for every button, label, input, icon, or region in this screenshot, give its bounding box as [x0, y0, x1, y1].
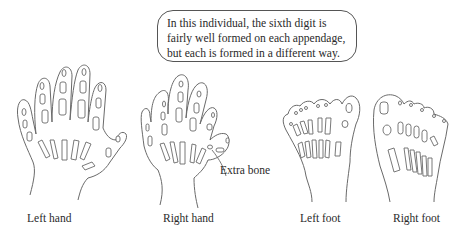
left-foot-drawing: [283, 96, 360, 202]
extra-bone-annotation: Extra bone: [220, 164, 270, 176]
left-hand-drawing: [17, 65, 126, 200]
right-hand-drawing: [141, 75, 229, 208]
illustration: [0, 0, 476, 240]
right-foot-drawing: [373, 95, 448, 202]
label-left-foot: Left foot: [300, 212, 341, 224]
label-right-foot: Right foot: [393, 212, 440, 224]
label-left-hand: Left hand: [27, 212, 71, 224]
label-right-hand: Right hand: [163, 212, 214, 224]
